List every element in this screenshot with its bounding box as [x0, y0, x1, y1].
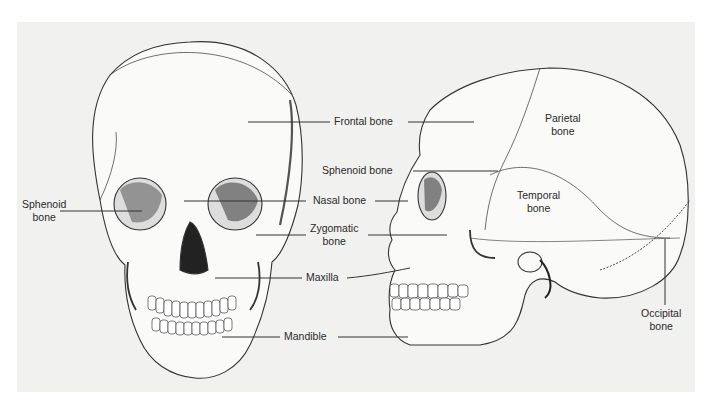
anterior-skull [93, 42, 303, 379]
label-zygomatic-bone: Zygomatic bone [310, 222, 358, 248]
label-sphenoid-bone-anterior: Sphenoid bone [22, 198, 66, 224]
label-zygomatic-line2: bone [310, 235, 358, 248]
label-temporal-line2: bone [517, 202, 560, 215]
label-mandible: Mandible [284, 330, 327, 343]
label-frontal-bone: Frontal bone [334, 115, 393, 128]
label-temporal-line1: Temporal [517, 189, 560, 202]
label-sphenoid-line2: bone [22, 211, 66, 224]
label-parietal-line1: Parietal [545, 112, 581, 125]
label-sphenoid-line1: Sphenoid [22, 198, 66, 211]
label-maxilla: Maxilla [306, 271, 339, 284]
label-parietal-bone: Parietal bone [545, 112, 581, 138]
label-nasal-bone: Nasal bone [313, 194, 366, 207]
label-temporal-bone: Temporal bone [517, 189, 560, 215]
label-occipital-line2: bone [641, 320, 681, 333]
label-occipital-line1: Occipital [641, 307, 681, 320]
label-zygomatic-line1: Zygomatic [310, 222, 358, 235]
label-occipital-bone: Occipital bone [641, 307, 681, 333]
label-parietal-line2: bone [545, 125, 581, 138]
label-sphenoid-bone-lateral: Sphenoid bone [322, 164, 393, 177]
